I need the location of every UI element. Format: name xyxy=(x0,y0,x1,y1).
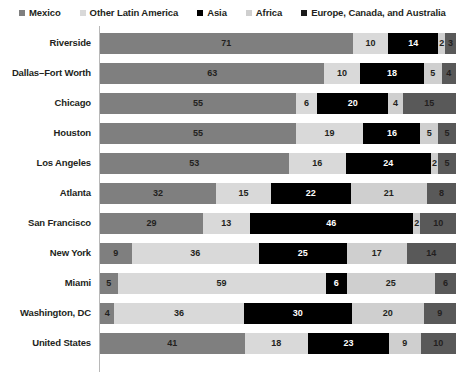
bar-segment-value: 13 xyxy=(221,219,231,228)
bar-segment: 55 xyxy=(100,93,296,114)
bar-segment: 18 xyxy=(245,333,308,354)
legend-item[interactable]: Europe, Canada, and Australia xyxy=(301,8,446,18)
bar-row: Dallas–Fort Worth63101854 xyxy=(0,58,459,88)
stacked-bar: 53162425 xyxy=(100,153,456,174)
bar-segment-value: 4 xyxy=(446,69,451,78)
bar-row: Washington, DC43630209 xyxy=(0,298,459,328)
legend-item[interactable]: Africa xyxy=(246,8,282,18)
bar-segment-value: 5 xyxy=(445,129,450,138)
bar-segment: 13 xyxy=(203,213,249,234)
bar-segment: 29 xyxy=(100,213,203,234)
stacked-bar: 43630209 xyxy=(100,303,456,324)
bar-segment-value: 15 xyxy=(238,189,248,198)
bar-segment: 71 xyxy=(100,33,353,54)
category-label: Dallas–Fort Worth xyxy=(0,68,96,78)
bar-row: New York936251714 xyxy=(0,238,459,268)
bar-segment-value: 20 xyxy=(383,309,393,318)
bar-segment-value: 30 xyxy=(293,309,303,318)
bar-segment-value: 5 xyxy=(445,159,450,168)
bar-segment: 30 xyxy=(244,303,352,324)
bar-segment: 17 xyxy=(347,243,407,264)
bar-segment: 2 xyxy=(438,33,445,54)
category-label: Washington, DC xyxy=(0,308,96,318)
bar-segment: 10 xyxy=(420,213,456,234)
bar-segment-value: 5 xyxy=(430,69,435,78)
legend-swatch-icon xyxy=(197,10,203,16)
bar-segment-value: 16 xyxy=(387,129,397,138)
bar-segment: 21 xyxy=(351,183,427,204)
bar-segment: 36 xyxy=(132,243,259,264)
bar-segment: 5 xyxy=(438,153,456,174)
bar-segment-value: 8 xyxy=(439,189,444,198)
bar-segment-value: 24 xyxy=(383,159,393,168)
bar-segment-value: 18 xyxy=(387,69,397,78)
bar-segment-value: 63 xyxy=(207,69,217,78)
bar-segment: 16 xyxy=(363,123,420,144)
bar-segment-value: 71 xyxy=(221,39,231,48)
legend-label: Europe, Canada, and Australia xyxy=(311,8,446,18)
bar-segment-value: 2 xyxy=(414,219,419,228)
legend-item[interactable]: Asia xyxy=(197,8,227,18)
category-label: New York xyxy=(0,248,96,258)
bar-segment-value: 25 xyxy=(298,249,308,258)
bar-segment-value: 2 xyxy=(439,39,444,48)
bar-segment: 55 xyxy=(100,123,296,144)
bar-segment-value: 2 xyxy=(432,159,437,168)
bar-segment: 9 xyxy=(424,303,456,324)
bar-segment-value: 23 xyxy=(343,339,353,348)
bar-segment: 59 xyxy=(118,273,326,294)
category-label: Atlanta xyxy=(0,188,96,198)
bar-segment-value: 36 xyxy=(190,249,200,258)
bar-segment-value: 22 xyxy=(306,189,316,198)
bar-segment-value: 4 xyxy=(105,309,110,318)
bar-segment: 6 xyxy=(326,273,347,294)
bar-segment-value: 10 xyxy=(433,339,443,348)
bar-segment-value: 55 xyxy=(193,99,203,108)
stacked-bar: 55191655 xyxy=(100,123,456,144)
bar-segment-value: 6 xyxy=(304,99,309,108)
bar-segment-value: 46 xyxy=(326,219,336,228)
bar-row: Chicago55620415 xyxy=(0,88,459,118)
bar-segment: 41 xyxy=(100,333,245,354)
bar-segment: 19 xyxy=(296,123,364,144)
bar-segment: 16 xyxy=(289,153,346,174)
bar-segment: 63 xyxy=(100,63,324,84)
legend-label: Mexico xyxy=(29,8,61,18)
bar-segment-value: 9 xyxy=(113,249,118,258)
legend-label: Africa xyxy=(256,8,282,18)
category-label: San Francisco xyxy=(0,218,96,228)
bar-segment-value: 14 xyxy=(426,249,436,258)
legend-swatch-icon xyxy=(19,10,25,16)
bar-segment: 22 xyxy=(271,183,351,204)
category-label: Riverside xyxy=(0,38,96,48)
legend-label: Other Latin America xyxy=(90,8,179,18)
legend-swatch-icon xyxy=(80,10,86,16)
chart-plot-area: Riverside71101423Dallas–Fort Worth631018… xyxy=(0,26,459,372)
bar-segment: 4 xyxy=(442,63,456,84)
bar-segment: 6 xyxy=(435,273,456,294)
stacked-bar: 321522218 xyxy=(100,183,456,204)
bar-segment-value: 20 xyxy=(348,99,358,108)
bar-segment: 20 xyxy=(317,93,388,114)
bar-segment: 10 xyxy=(324,63,360,84)
bar-segment: 32 xyxy=(100,183,216,204)
bar-segment: 5 xyxy=(438,123,456,144)
category-label: United States xyxy=(0,338,96,348)
legend-item[interactable]: Mexico xyxy=(19,8,61,18)
bar-segment-value: 9 xyxy=(437,309,442,318)
bar-segment: 9 xyxy=(100,243,132,264)
stacked-bar: 5596256 xyxy=(100,273,456,294)
category-label: Houston xyxy=(0,128,96,138)
bar-segment: 4 xyxy=(100,303,114,324)
bar-segment: 10 xyxy=(421,333,456,354)
bar-segment: 53 xyxy=(100,153,289,174)
category-label: Miami xyxy=(0,278,96,288)
bar-segment-value: 32 xyxy=(153,189,163,198)
bar-segment-value: 16 xyxy=(312,159,322,168)
stacked-bar: 411823910 xyxy=(100,333,456,354)
bar-segment: 46 xyxy=(250,213,414,234)
bar-row: United States411823910 xyxy=(0,328,459,358)
bar-segment-value: 55 xyxy=(193,129,203,138)
legend-item[interactable]: Other Latin America xyxy=(80,8,179,18)
bar-segment-value: 41 xyxy=(167,339,177,348)
